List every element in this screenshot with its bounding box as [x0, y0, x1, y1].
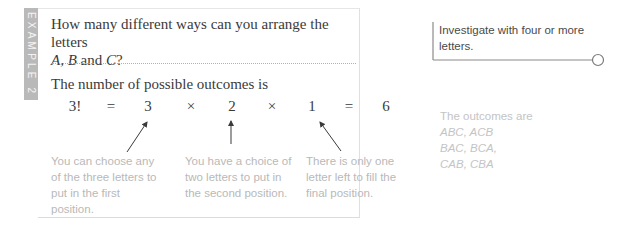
arrow-icon: [127, 122, 147, 152]
outcome-line: ABC, ACB: [440, 124, 533, 140]
arrow-icon: [320, 122, 341, 151]
explanation-second: You have a choice of two letters to put …: [185, 153, 295, 201]
side-note: Investigate with four or more letters.: [433, 22, 599, 54]
outcome-line: CAB, CBA: [440, 156, 533, 172]
note-circle-icon: [593, 55, 604, 66]
outcomes-intro: The outcomes are: [440, 110, 533, 122]
outcome-line: BAC, BCA,: [440, 140, 533, 156]
explanation-first: You can choose any of the three letters …: [51, 153, 161, 217]
outcomes: The outcomes are ABC, ACB BAC, BCA, CAB,…: [440, 108, 533, 172]
explanation-third: There is only one letter left to fill th…: [306, 153, 416, 201]
